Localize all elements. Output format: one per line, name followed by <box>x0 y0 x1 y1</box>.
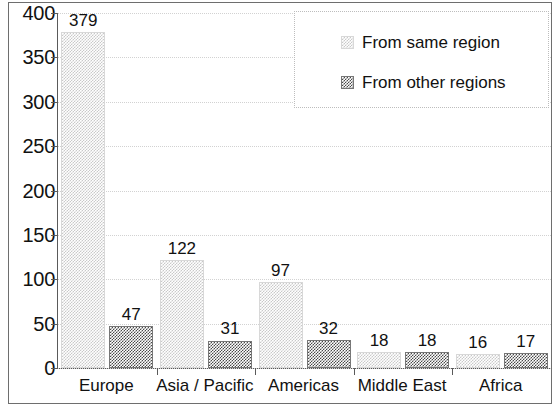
bar-europe-series-2 <box>109 326 153 368</box>
x-axis-labels: EuropeAsia / PacificAmericasMiddle EastA… <box>57 377 551 403</box>
x-axis-tick-mark <box>354 368 355 375</box>
x-axis-category-label: Africa <box>451 377 550 394</box>
y-axis-tick-mark <box>51 191 58 192</box>
bar-americas-series-2 <box>307 340 351 368</box>
bar-value-label: 17 <box>504 333 548 350</box>
y-axis-tick-mark <box>51 235 58 236</box>
x-axis-category-label: Americas <box>254 377 353 394</box>
bar-value-label: 379 <box>61 12 105 29</box>
legend-entry-from-same-region: From same region <box>341 34 500 51</box>
chart-frame: 400350300250200150100500 379471223197321… <box>8 2 552 404</box>
y-axis-tick-label: 300 <box>9 92 55 112</box>
bar-middle-east-series-1 <box>357 352 401 368</box>
y-axis-tick-mark <box>51 368 58 369</box>
x-axis-category-label: Middle East <box>353 377 452 394</box>
bar-asia-pacific-series-2 <box>208 341 252 369</box>
x-axis-tick-mark <box>452 368 453 375</box>
legend-swatch-icon-other-regions <box>341 76 354 89</box>
legend-label-same-region: From same region <box>362 34 500 51</box>
bar-africa-series-2 <box>504 353 548 368</box>
gridline <box>58 279 551 280</box>
y-axis-tick-label: 250 <box>9 136 55 156</box>
legend-label-other-regions: From other regions <box>362 74 506 91</box>
x-axis-category-label: Europe <box>57 377 156 394</box>
y-axis-tick-label: 0 <box>9 358 55 378</box>
gridline <box>58 191 551 192</box>
bar-asia-pacific-series-1 <box>160 260 204 368</box>
bar-value-label: 31 <box>208 320 252 337</box>
bar-europe-series-1 <box>61 32 105 368</box>
bar-americas-series-1 <box>259 282 303 368</box>
y-axis-tick-label: 50 <box>9 314 55 334</box>
bar-middle-east-series-2 <box>405 352 449 368</box>
y-axis-labels: 400350300250200150100500 <box>9 3 55 405</box>
gridline <box>58 235 551 236</box>
y-axis-tick-mark <box>51 57 58 58</box>
y-axis-tick-mark <box>51 102 58 103</box>
x-axis-category-label: Asia / Pacific <box>156 377 255 394</box>
bar-value-label: 97 <box>259 262 303 279</box>
bar-value-label: 32 <box>307 320 351 337</box>
bar-africa-series-1 <box>456 354 500 368</box>
gridline <box>58 368 551 369</box>
bar-value-label: 18 <box>357 332 401 349</box>
y-axis-tick-mark <box>51 279 58 280</box>
y-axis-tick-mark <box>51 13 58 14</box>
legend-swatch-icon-same-region <box>341 36 354 49</box>
legend-entry-from-other-regions: From other regions <box>341 74 506 91</box>
chart-legend: From same region From other regions <box>294 11 549 108</box>
x-axis-tick-mark <box>157 368 158 375</box>
y-axis-tick-label: 100 <box>9 269 55 289</box>
x-axis-tick-mark <box>255 368 256 375</box>
y-axis-tick-label: 400 <box>9 3 55 23</box>
y-axis-tick-label: 150 <box>9 225 55 245</box>
y-axis-tick-mark <box>51 146 58 147</box>
gridline <box>58 146 551 147</box>
y-axis-tick-label: 200 <box>9 181 55 201</box>
bar-value-label: 16 <box>456 334 500 351</box>
bar-value-label: 122 <box>160 240 204 257</box>
y-axis-tick-label: 350 <box>9 47 55 67</box>
bar-value-label: 18 <box>405 332 449 349</box>
y-axis-tick-mark <box>51 324 58 325</box>
bar-value-label: 47 <box>109 306 153 323</box>
